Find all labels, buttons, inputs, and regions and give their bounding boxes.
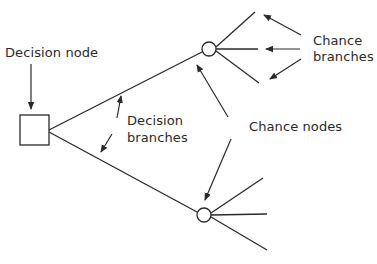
decision-node-label: Decision node bbox=[5, 45, 98, 61]
chance-branches-top bbox=[216, 12, 259, 83]
decision-branches-label-line1: Decision bbox=[127, 113, 183, 129]
arrow-chance-node-top bbox=[197, 65, 228, 117]
arrow-chance-branch-3 bbox=[270, 59, 301, 79]
chance-branch-top-3 bbox=[216, 51, 259, 83]
chance-branches-label-line1: Chance bbox=[313, 33, 362, 49]
chance-branches-bottom bbox=[211, 178, 267, 250]
chance-node-top-circle bbox=[202, 42, 216, 56]
arrow-chance-branch-1 bbox=[264, 15, 301, 35]
annotation-arrows bbox=[31, 15, 301, 200]
decision-node-square bbox=[20, 115, 49, 145]
chance-branch-top-1 bbox=[216, 12, 255, 47]
chance-node-bottom-circle bbox=[197, 208, 211, 222]
chance-branches-label-line2: branches bbox=[313, 49, 374, 65]
decision-branches-label-line2: branches bbox=[127, 130, 188, 146]
chance-nodes-label: Chance nodes bbox=[249, 119, 342, 135]
arrow-chance-node-bottom bbox=[205, 139, 231, 200]
chance-branch-bottom-3 bbox=[211, 217, 267, 250]
arrow-decision-branch-lower bbox=[101, 134, 112, 152]
chance-branch-bottom-2 bbox=[211, 214, 267, 215]
chance-branch-bottom-1 bbox=[211, 178, 263, 213]
decision-tree-diagram: Decision node Decision branches Chance n… bbox=[0, 0, 377, 264]
arrow-decision-branch-upper bbox=[117, 96, 121, 118]
